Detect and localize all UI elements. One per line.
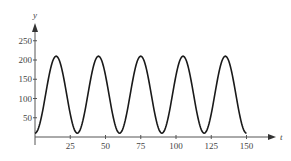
x-tick-label: 75 [136,141,146,151]
x-tick-label: 25 [66,141,76,151]
y-tick-label: 200 [19,55,33,65]
x-axis-arrow-icon [268,134,276,140]
y-axis-label: y [32,10,37,20]
y-tick-label: 50 [23,113,33,123]
y-axis-arrow-icon [32,23,38,32]
x-tick-label: 125 [205,141,219,151]
x-tick-label: 100 [169,141,183,151]
y-tick-label: 100 [19,94,33,104]
chart: ty25507510012515050100150200250 [0,0,291,161]
y-tick-label: 150 [19,74,33,84]
y-tick-label: 250 [19,36,33,46]
x-tick-label: 150 [240,141,254,151]
sinusoid-curve [35,56,247,133]
x-tick-label: 50 [101,141,111,151]
x-axis-label: t [280,132,283,142]
